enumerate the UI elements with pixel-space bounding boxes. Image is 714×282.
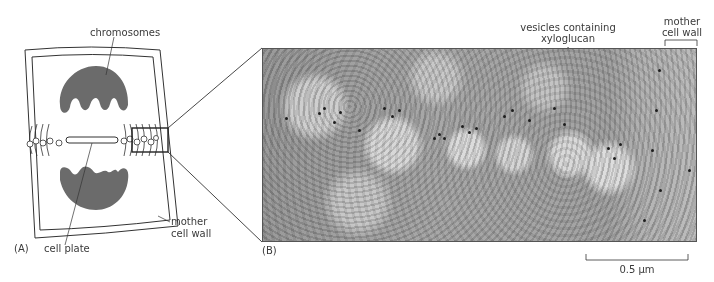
- gold-particle: [655, 109, 658, 112]
- phragmoplast-left: [30, 124, 50, 156]
- electron-micrograph: [262, 48, 697, 242]
- vesicles-label-2: xyloglucan: [520, 33, 616, 44]
- chromosomes-top: [60, 66, 128, 113]
- gold-particle: [358, 129, 361, 132]
- scale-bar-label: 0.5 µm: [600, 264, 674, 275]
- gold-particle: [398, 109, 401, 112]
- gold-particle: [323, 107, 326, 110]
- gold-particle: [475, 127, 478, 130]
- gold-particle: [391, 115, 394, 118]
- gold-particle: [503, 115, 506, 118]
- gold-particle: [553, 107, 556, 110]
- gold-particle: [528, 119, 531, 122]
- gold-particle: [318, 112, 321, 115]
- gold-particle: [607, 147, 610, 150]
- scale-bar: [586, 254, 688, 260]
- mother-cell-wall-label-a-2: cell wall: [171, 228, 211, 239]
- gold-particle: [613, 157, 616, 160]
- gold-particle: [285, 117, 288, 120]
- gold-particle: [461, 125, 464, 128]
- gold-particle: [433, 137, 436, 140]
- gold-particle: [443, 137, 446, 140]
- vesicles-right: [121, 136, 159, 146]
- cell-plate: [66, 137, 118, 143]
- panel-a-label: (A): [14, 243, 29, 254]
- gold-particle: [658, 69, 661, 72]
- zoom-line-top: [168, 48, 262, 128]
- gold-particle: [438, 133, 441, 136]
- gold-particle: [688, 169, 691, 172]
- gold-particle: [651, 149, 654, 152]
- gold-particle: [659, 189, 662, 192]
- vesicles-left: [27, 138, 62, 147]
- mother-cell-wall-bracket: [665, 40, 697, 46]
- gold-particle: [563, 123, 566, 126]
- chromosomes-bottom: [60, 166, 128, 210]
- gold-particle: [619, 143, 622, 146]
- gold-particle: [333, 121, 336, 124]
- gold-particle: [643, 219, 646, 222]
- cell-plate-label: cell plate: [44, 243, 90, 254]
- gold-particle: [511, 109, 514, 112]
- mother-cell-wall-label-b-1: mother: [660, 16, 704, 27]
- chromosomes-label: chromosomes: [90, 27, 160, 38]
- vesicles-label-1: vesicles containing: [520, 22, 616, 33]
- panel-b-label: (B): [262, 245, 277, 256]
- gold-particle: [468, 131, 471, 134]
- mother-cell-wall-label-a-1: mother: [171, 216, 207, 227]
- gold-particle: [339, 111, 342, 114]
- gold-particle: [383, 107, 386, 110]
- mother-cell-wall-label-b-2: cell wall: [660, 27, 704, 38]
